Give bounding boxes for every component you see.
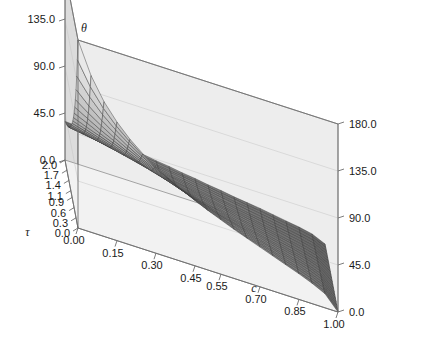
tau-tick-6: 1.7 [44,169,59,181]
z-tick-right-4: 180.0 [349,118,377,130]
plot-canvas: 0.00.045.045.090.090.0135.0135.0180.0180… [0,0,442,345]
c-tick-3: 0.45 [180,272,201,284]
axis-title-tau: τ [25,225,30,239]
c-tick-2: 0.30 [141,259,162,271]
z-tick-right-3: 135.0 [349,165,377,177]
z-tick-right-1: 45.0 [349,259,370,271]
tau-tick-7: 2.0 [42,159,57,171]
c-tick-0: 0.00 [63,234,84,246]
c-tick-6: 0.85 [284,305,305,317]
c-tick-7: 1.00 [323,318,344,330]
z-tick-right-2: 90.0 [349,212,370,224]
axis-title-theta: θ [81,21,87,35]
c-tick-4: 0.55 [206,280,227,292]
z-tick-left-1: 45.0 [34,107,55,119]
z-tick-left-2: 90.0 [34,60,55,72]
axis-title-c: c [251,281,257,295]
z-tick-right-0: 0.0 [349,306,364,318]
surface-plot-figure: 0.00.045.045.090.090.0135.0135.0180.0180… [0,0,442,345]
z-tick-left-3: 135.0 [27,13,55,25]
c-tick-1: 0.15 [102,247,123,259]
